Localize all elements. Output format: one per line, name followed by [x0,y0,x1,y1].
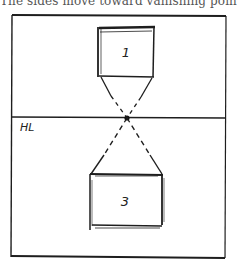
horizon-label: HL [20,121,34,134]
perspective-diagram: 1 HL 3 [0,0,237,271]
converging-lines-lower [91,118,162,174]
box-1-label: 1 [122,45,130,60]
horizon-line [12,117,226,118]
box-3-label: 3 [121,194,129,209]
converging-lines-upper [101,77,152,118]
outer-frame [11,15,226,258]
